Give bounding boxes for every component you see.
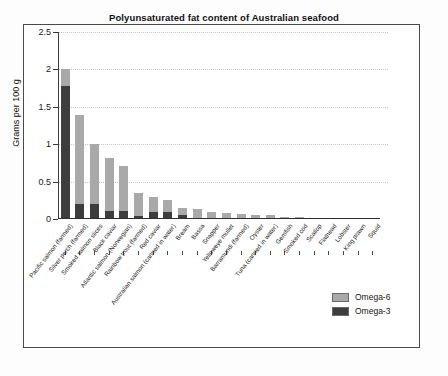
bar-segment-omega-6	[75, 115, 84, 204]
bar-stack[interactable]	[295, 32, 304, 219]
bar-segment-omega-3	[90, 204, 99, 219]
bar-slot	[190, 32, 205, 219]
bar-segment-omega-6	[149, 197, 158, 212]
x-tick	[322, 251, 337, 255]
bar-segment-omega-6	[119, 166, 128, 211]
legend-swatch	[332, 293, 349, 302]
legend-swatch	[332, 307, 349, 316]
bar-stack[interactable]	[119, 32, 128, 219]
bar-segment-omega-6	[134, 193, 143, 216]
x-tick	[234, 251, 249, 255]
bar-segment-omega-6	[193, 209, 202, 217]
bar-stack[interactable]	[61, 32, 70, 219]
x-tick	[190, 251, 205, 255]
bar-segment-omega-6	[61, 69, 70, 85]
legend-label: Omega-3	[355, 306, 390, 316]
x-tick	[160, 251, 175, 255]
bar-slot	[58, 32, 73, 219]
x-axis-line	[58, 218, 380, 219]
bar-segment-omega-3	[75, 204, 84, 219]
y-axis-title: Grams per 100 g	[11, 53, 21, 173]
plot-inner: 00.511.522.5	[58, 32, 380, 219]
bar-stack[interactable]	[105, 32, 114, 219]
x-tick	[175, 251, 190, 255]
y-tick-label: 0.5	[38, 177, 51, 187]
chart-legend: Omega-6Omega-3	[332, 292, 390, 316]
bar-slot	[87, 32, 102, 219]
bar-stack[interactable]	[149, 32, 158, 219]
x-tick	[307, 251, 322, 255]
bar-slot	[73, 32, 88, 219]
y-tick-mark	[53, 219, 58, 220]
x-tick	[351, 251, 366, 255]
x-tick	[263, 251, 278, 255]
bar-stack[interactable]	[75, 32, 84, 219]
plot-area: 00.511.522.5	[58, 32, 380, 219]
bar-stack[interactable]	[207, 32, 216, 219]
bar-stack[interactable]	[310, 32, 319, 219]
bar-slot	[234, 32, 249, 219]
x-tick	[365, 251, 380, 255]
chart-title: Polyunsaturated fat content of Australia…	[0, 12, 448, 23]
bar-stack[interactable]	[178, 32, 187, 219]
bar-stack[interactable]	[90, 32, 99, 219]
bar-stack[interactable]	[324, 32, 333, 219]
bar-stack[interactable]	[339, 32, 348, 219]
bar-stack[interactable]	[193, 32, 202, 219]
x-tick	[292, 251, 307, 255]
bar-slot	[336, 32, 351, 219]
bar-slot	[365, 32, 380, 219]
bar-stack[interactable]	[237, 32, 246, 219]
bar-slot	[146, 32, 161, 219]
bar-slot	[322, 32, 337, 219]
legend-item[interactable]: Omega-3	[332, 306, 390, 316]
bar-stack[interactable]	[134, 32, 143, 219]
x-tick	[336, 251, 351, 255]
bar-slot	[160, 32, 175, 219]
bar-stack[interactable]	[368, 32, 377, 219]
bar-slot	[204, 32, 219, 219]
bar-slot	[351, 32, 366, 219]
y-tick-label: 2	[46, 64, 51, 74]
bar-stack[interactable]	[280, 32, 289, 219]
bar-slot	[102, 32, 117, 219]
bar-segment-omega-6	[105, 158, 114, 211]
x-tick	[131, 251, 146, 255]
chart-page: Polyunsaturated fat content of Australia…	[0, 0, 448, 376]
bar-stack[interactable]	[222, 32, 231, 219]
y-tick-label: 0	[46, 214, 51, 224]
bar-slot	[175, 32, 190, 219]
legend-label: Omega-6	[355, 292, 390, 302]
bar-slot	[248, 32, 263, 219]
bar-stack[interactable]	[266, 32, 275, 219]
bar-slot	[278, 32, 293, 219]
bar-series-group	[58, 32, 380, 219]
bar-slot	[307, 32, 322, 219]
y-tick-label: 1.5	[38, 102, 51, 112]
bar-segment-omega-3	[61, 86, 70, 219]
bar-segment-omega-6	[178, 208, 187, 215]
bar-slot	[117, 32, 132, 219]
bar-slot	[292, 32, 307, 219]
bar-segment-omega-6	[163, 200, 172, 213]
bar-segment-omega-6	[90, 144, 99, 204]
bar-slot	[131, 32, 146, 219]
y-tick-label: 2.5	[38, 27, 51, 37]
bar-stack[interactable]	[251, 32, 260, 219]
legend-item[interactable]: Omega-6	[332, 292, 390, 302]
bar-stack[interactable]	[354, 32, 363, 219]
y-tick-label: 1	[46, 139, 51, 149]
bar-slot	[263, 32, 278, 219]
bar-stack[interactable]	[163, 32, 172, 219]
bar-slot	[219, 32, 234, 219]
